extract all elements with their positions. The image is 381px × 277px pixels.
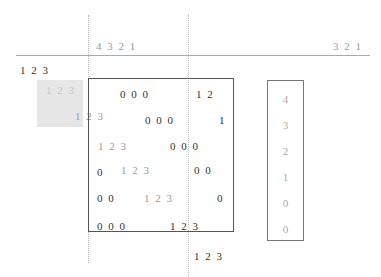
row-4-cell-a: 0 0 — [97, 192, 115, 204]
row-2-cell-b: 0 0 0 — [170, 140, 200, 152]
column-item: 3 — [268, 119, 303, 131]
row-0-cell-a: 0 0 0 — [120, 88, 150, 100]
column-item: 4 — [268, 93, 303, 105]
row-4-cell-b: 1 2 3 — [144, 192, 174, 204]
header-left-label: 4 3 2 1 — [96, 40, 137, 52]
row-1-cell-a: 0 0 0 — [145, 114, 175, 126]
header-divider — [16, 55, 370, 56]
grey-box-label-top: 1 2 3 — [46, 84, 76, 96]
main-box — [88, 78, 234, 232]
below-box-label: 1 2 3 — [194, 250, 224, 262]
number-column: 4 3 2 1 0 0 — [267, 80, 304, 241]
column-item: 0 — [268, 197, 303, 209]
row-5-cell-b: 1 2 3 — [170, 220, 200, 232]
row-3-cell-a: 0 — [97, 166, 104, 178]
column-item: 0 — [268, 223, 303, 235]
row-1-cell-b: 1 — [219, 114, 226, 126]
row-0-cell-b: 1 2 — [196, 88, 214, 100]
row-4-cell-c: 0 — [217, 192, 224, 204]
column-item: 2 — [268, 145, 303, 157]
row-3-cell-b: 1 2 3 — [121, 164, 151, 176]
header-right-label: 3 2 1 — [333, 40, 363, 52]
column-item: 1 — [268, 171, 303, 183]
row-2-cell-a: 1 2 3 — [98, 140, 128, 152]
row-3-cell-c: 0 0 — [194, 164, 212, 176]
row-5-cell-a: 0 0 0 — [97, 220, 127, 232]
side-label: 1 2 3 — [20, 64, 50, 76]
